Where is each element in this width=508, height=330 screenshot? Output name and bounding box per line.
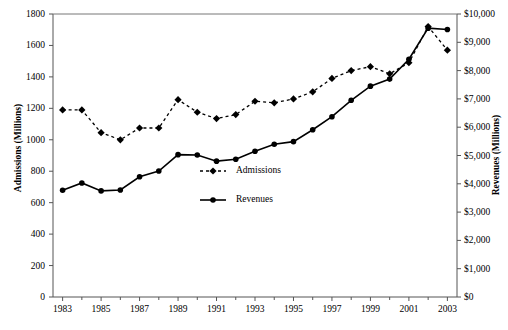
- chart-container: Admissions (Millions) Revenues (Millions…: [0, 0, 508, 330]
- axes: [49, 14, 461, 301]
- legend-marks: [200, 167, 226, 202]
- legend-item-admissions: Admissions: [236, 165, 281, 175]
- legend-item-revenues: Revenues: [236, 194, 273, 204]
